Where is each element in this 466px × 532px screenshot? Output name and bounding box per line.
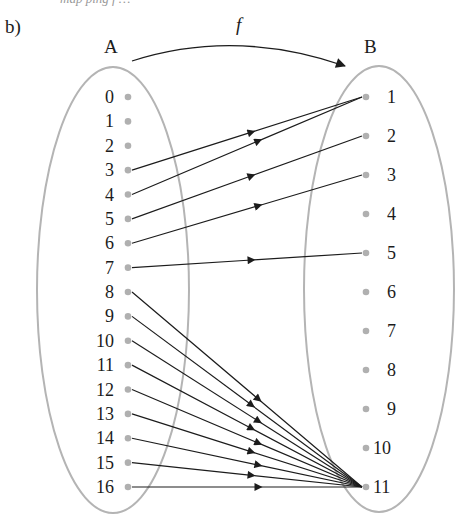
set-a-element-dot xyxy=(125,167,132,174)
set-b-element-dot xyxy=(363,94,370,101)
set-a-element-dot xyxy=(125,484,132,491)
set-b-element-label: 3 xyxy=(387,166,417,184)
mapping-arrow xyxy=(132,365,362,487)
set-b-element-label: 7 xyxy=(387,322,417,340)
set-b-element-dot xyxy=(363,172,370,179)
set-b-element-label: 5 xyxy=(387,244,417,262)
set-a-element-dot xyxy=(125,435,132,442)
mapping-arrow xyxy=(132,136,362,219)
mapping-arrow xyxy=(132,175,362,243)
set-a-element-dot xyxy=(125,411,132,418)
set-b-element-dot xyxy=(363,211,370,218)
set-b-element-label: 1 xyxy=(387,88,417,106)
set-a-element-label: 2 xyxy=(84,137,114,155)
set-b-element-label: 10 xyxy=(373,439,403,457)
set-a-element-label: 5 xyxy=(84,210,114,228)
set-a-element-label: 8 xyxy=(84,283,114,301)
set-b-element-dot xyxy=(363,289,370,296)
set-b-element-label: 2 xyxy=(387,127,417,145)
mapping-arrow xyxy=(132,341,362,487)
set-a-element-dot xyxy=(125,216,132,223)
set-a-element-dot xyxy=(125,289,132,296)
mapping-arrow xyxy=(132,316,362,487)
set-b-element-label: 8 xyxy=(387,361,417,379)
set-b-element-dot xyxy=(363,250,370,257)
set-a-element-label: 1 xyxy=(84,112,114,130)
set-a-element-dot xyxy=(125,313,132,320)
mapping-arrow xyxy=(132,97,362,195)
set-a-element-dot xyxy=(125,191,132,198)
set-a-element-dot xyxy=(125,337,132,344)
set-a-element-dot xyxy=(125,362,132,369)
set-b-element-label: 9 xyxy=(387,400,417,418)
set-b-element-label: 11 xyxy=(373,478,403,496)
set-a-element-dot xyxy=(125,240,132,247)
mapping-arrow xyxy=(132,463,362,487)
set-a-element-label: 4 xyxy=(84,186,114,204)
set-a-element-label: 11 xyxy=(84,356,114,374)
set-b-element-dot xyxy=(363,484,370,491)
set-a-element-label: 3 xyxy=(84,161,114,179)
set-b-element-dot xyxy=(363,328,370,335)
set-a-element-label: 6 xyxy=(84,234,114,252)
set-b-element-label: 6 xyxy=(387,283,417,301)
mapping-arrow xyxy=(132,438,362,487)
set-a-element-label: 16 xyxy=(84,478,114,496)
set-a-element-label: 14 xyxy=(84,429,114,447)
set-a-element-label: 12 xyxy=(84,381,114,399)
set-a-element-label: 0 xyxy=(84,88,114,106)
set-a-element-dot xyxy=(125,264,132,271)
set-b-element-dot xyxy=(363,406,370,413)
set-a-element-label: 7 xyxy=(84,259,114,277)
set-a-element-dot xyxy=(125,94,132,101)
set-a-element-label: 15 xyxy=(84,454,114,472)
set-b-element-dot xyxy=(363,133,370,140)
set-a-element-label: 9 xyxy=(84,307,114,325)
set-b-element-label: 4 xyxy=(387,205,417,223)
function-arrow xyxy=(132,46,345,66)
mapping-arrow xyxy=(132,390,362,488)
set-a-element-dot xyxy=(125,459,132,466)
mapping-arrow xyxy=(132,253,362,268)
set-a-element-dot xyxy=(125,118,132,125)
set-a-element-label: 10 xyxy=(84,332,114,350)
set-a-element-dot xyxy=(125,386,132,393)
set-a-element-dot xyxy=(125,142,132,149)
set-b-element-dot xyxy=(363,367,370,374)
set-b-element-dot xyxy=(363,445,370,452)
set-a-element-label: 13 xyxy=(84,405,114,423)
mapping-arrow xyxy=(132,292,362,487)
